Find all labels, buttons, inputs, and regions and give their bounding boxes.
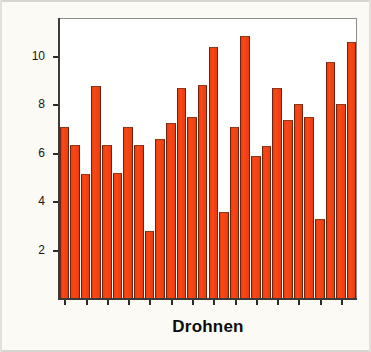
- x-tick: [128, 300, 130, 305]
- bar: [240, 36, 250, 299]
- y-tick-label-10: 10: [21, 49, 45, 63]
- bar: [102, 145, 112, 299]
- bar: [304, 117, 314, 299]
- bar: [209, 47, 219, 299]
- figure-border-top: [0, 0, 371, 2]
- bar: [113, 173, 123, 299]
- x-tick: [149, 300, 151, 305]
- x-tick: [213, 300, 215, 305]
- bar: [187, 117, 197, 299]
- bar: [347, 42, 357, 299]
- bar: [123, 127, 133, 299]
- bar: [60, 127, 70, 299]
- bar: [283, 120, 293, 299]
- bar: [81, 174, 91, 299]
- bar: [262, 146, 272, 299]
- x-axis-line: [58, 298, 357, 300]
- bar: [166, 123, 176, 299]
- bar: [272, 88, 282, 299]
- bar: [198, 85, 208, 299]
- bar: [91, 86, 101, 299]
- bar: [70, 145, 80, 299]
- plot-frame-top: [59, 18, 357, 19]
- bar: [326, 62, 336, 299]
- y-tick-label-8: 8: [21, 97, 45, 111]
- x-tick: [256, 300, 258, 305]
- bar: [155, 139, 165, 299]
- x-tick: [235, 300, 237, 305]
- bar: [219, 212, 229, 299]
- x-axis-title: Drohnen: [59, 317, 357, 337]
- bar: [251, 156, 261, 299]
- bar: [145, 231, 155, 299]
- x-tick: [341, 300, 343, 305]
- bar: [230, 127, 240, 299]
- bar: [134, 145, 144, 299]
- x-tick: [171, 300, 173, 305]
- y-tick-label-6: 6: [21, 146, 45, 160]
- x-tick: [86, 300, 88, 305]
- bar: [177, 88, 187, 299]
- y-axis-line: [58, 18, 60, 300]
- x-tick: [107, 300, 109, 305]
- chart-figure: 246810 Anzahl Spermien in Millionen Droh…: [0, 0, 371, 352]
- x-tick: [64, 300, 66, 305]
- x-tick: [277, 300, 279, 305]
- x-tick: [320, 300, 322, 305]
- x-tick: [298, 300, 300, 305]
- y-tick-label-2: 2: [21, 243, 45, 257]
- bar: [336, 104, 346, 299]
- bar: [294, 104, 304, 299]
- y-tick-label-4: 4: [21, 194, 45, 208]
- figure-border-left: [0, 0, 2, 352]
- x-tick: [192, 300, 194, 305]
- bar: [315, 219, 325, 299]
